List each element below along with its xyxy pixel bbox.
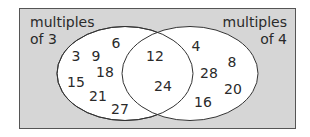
element: 24 xyxy=(154,78,172,94)
element: 15 xyxy=(67,74,85,90)
set-a-label-line1: multiples xyxy=(30,14,94,30)
set-b-label-line1: multiples xyxy=(223,14,287,30)
element: 12 xyxy=(146,48,164,64)
element: 9 xyxy=(92,48,101,64)
element: 3 xyxy=(72,48,81,64)
element: 6 xyxy=(112,35,121,51)
element: 18 xyxy=(96,64,114,80)
set-multiples-of-4 xyxy=(122,27,258,121)
element: 8 xyxy=(228,54,237,70)
element: 28 xyxy=(200,65,218,81)
element: 20 xyxy=(224,81,242,97)
element: 4 xyxy=(192,38,201,54)
set-a-label-line2: of 3 xyxy=(30,31,57,47)
set-b-label-line2: of 4 xyxy=(260,31,287,47)
venn-diagram: multiples of 3 multiples of 4 3 9 6 18 1… xyxy=(0,0,310,137)
element: 16 xyxy=(194,94,212,110)
element: 27 xyxy=(111,101,129,117)
element: 21 xyxy=(89,88,107,104)
